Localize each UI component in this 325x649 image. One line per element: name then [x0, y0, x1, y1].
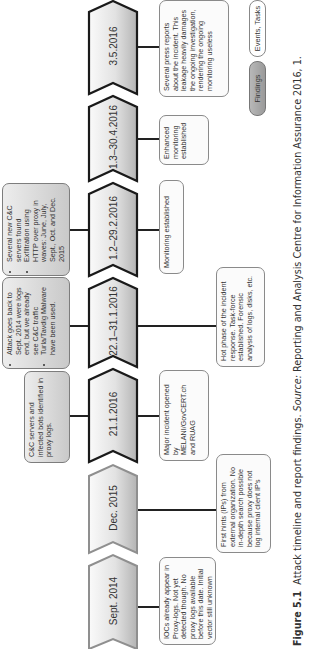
event-box-1-2-29-2-2016: Monitoring established — [159, 180, 184, 274]
event-box-22-1-31-1-2016: Hot phase of the incident response. Task… — [216, 267, 265, 367]
finding-bullet: Exfiltration using HTTP over proxy in wa… — [23, 189, 66, 262]
finding-box-21-1-2016: C&C servers and infected bots identified… — [24, 371, 70, 463]
event-text: Monitoring established — [162, 196, 171, 268]
attack-timeline-figure: Sept. 2014 Dec. 2015 21.1.2016 22.1–31.1… — [0, 0, 325, 649]
connector-event-1-3-30-4-2016 — [138, 139, 159, 141]
segment-label-21-1-2016: 21.1.2016 — [88, 374, 138, 454]
event-box-3-5-2016: Several press reports about the incident… — [159, 0, 229, 97]
segment-label-sept-2014: Sept. 2014 — [88, 561, 138, 641]
event-box-1-3-30-4-2016: Enhanced monitoring established — [159, 115, 209, 165]
caption-source-label: Source: — [292, 375, 303, 411]
connector-event-1-2-29-2-2016 — [138, 230, 159, 232]
finding-bullet: Attack goes back to Sept. 2014 were logs… — [6, 283, 40, 355]
event-text: IOCs already appear in Proxy-logs. Not y… — [162, 565, 214, 639]
segment-label-dec-2015: Dec. 2015 — [88, 471, 138, 545]
legend-findings: Findings — [249, 61, 266, 116]
event-box-21-1-2016: Major incident opened by MELANI/GovCERT.… — [159, 370, 209, 461]
connector-event-3-5-2016 — [138, 47, 159, 49]
finding-box-22-1-31-1-2016: Attack goes back to Sept. 2014 were logs… — [2, 277, 70, 369]
connector-event-sept-2014 — [138, 607, 159, 609]
event-text: First hints (IPs) from external organiza… — [219, 467, 262, 547]
finding-box-1-2-29-2-2016: Several new C&C servers found Exfiltrati… — [2, 183, 70, 276]
caption-source-text: Reporting and Analysis Centre for Inform… — [292, 56, 303, 372]
caption-title: Attack timeline and report findings. — [292, 415, 303, 585]
finding-text: C&C servers and infected bots identified… — [27, 378, 53, 457]
finding-bullet: Several new C&C servers found — [6, 189, 23, 262]
connector-finding-21-1-2016 — [70, 416, 88, 418]
event-text: Enhanced monitoring established — [162, 123, 188, 159]
connector-finding-22-1-31-1-2016 — [70, 326, 88, 328]
connector-event-dec-2015 — [138, 510, 216, 512]
finding-bullet: Turla/Tavdig Malware have been used. — [40, 283, 57, 355]
event-text: Several press reports about the incident… — [162, 9, 214, 91]
legend-events-tasks: Events, Tasks — [249, 0, 266, 57]
segment-label-1-2-29-2-2016: 1.2–29.2.2016 — [88, 188, 138, 268]
connector-finding-1-2-29-2-2016 — [70, 230, 88, 232]
event-text: Major incident opened by MELANI/GovCERT.… — [162, 384, 197, 455]
connector-event-22-1-31-1-2016 — [138, 326, 216, 328]
event-box-dec-2015: First hints (IPs) from external organiza… — [216, 454, 271, 553]
caption-label: Figure 5.1 — [292, 591, 303, 646]
segment-label-22-1-31-1-2016: 22.1–31.1.2016 — [88, 283, 138, 359]
connector-event-21-1-2016 — [138, 416, 159, 418]
event-text: Hot phase of the incident response. Task… — [219, 276, 254, 361]
segment-label-1-3-30-4-2016: 1.3–30.4.2016 — [88, 101, 138, 173]
segment-label-3-5-2016: 3.5.2016 — [88, 6, 138, 86]
figure-caption: Figure 5.1 Attack timeline and report fi… — [292, 56, 303, 646]
legend-findings-label: Findings — [253, 75, 262, 103]
event-box-sept-2014: IOCs already appear in Proxy-logs. Not y… — [159, 557, 216, 645]
legend-events-label: Events, Tasks — [253, 6, 262, 51]
